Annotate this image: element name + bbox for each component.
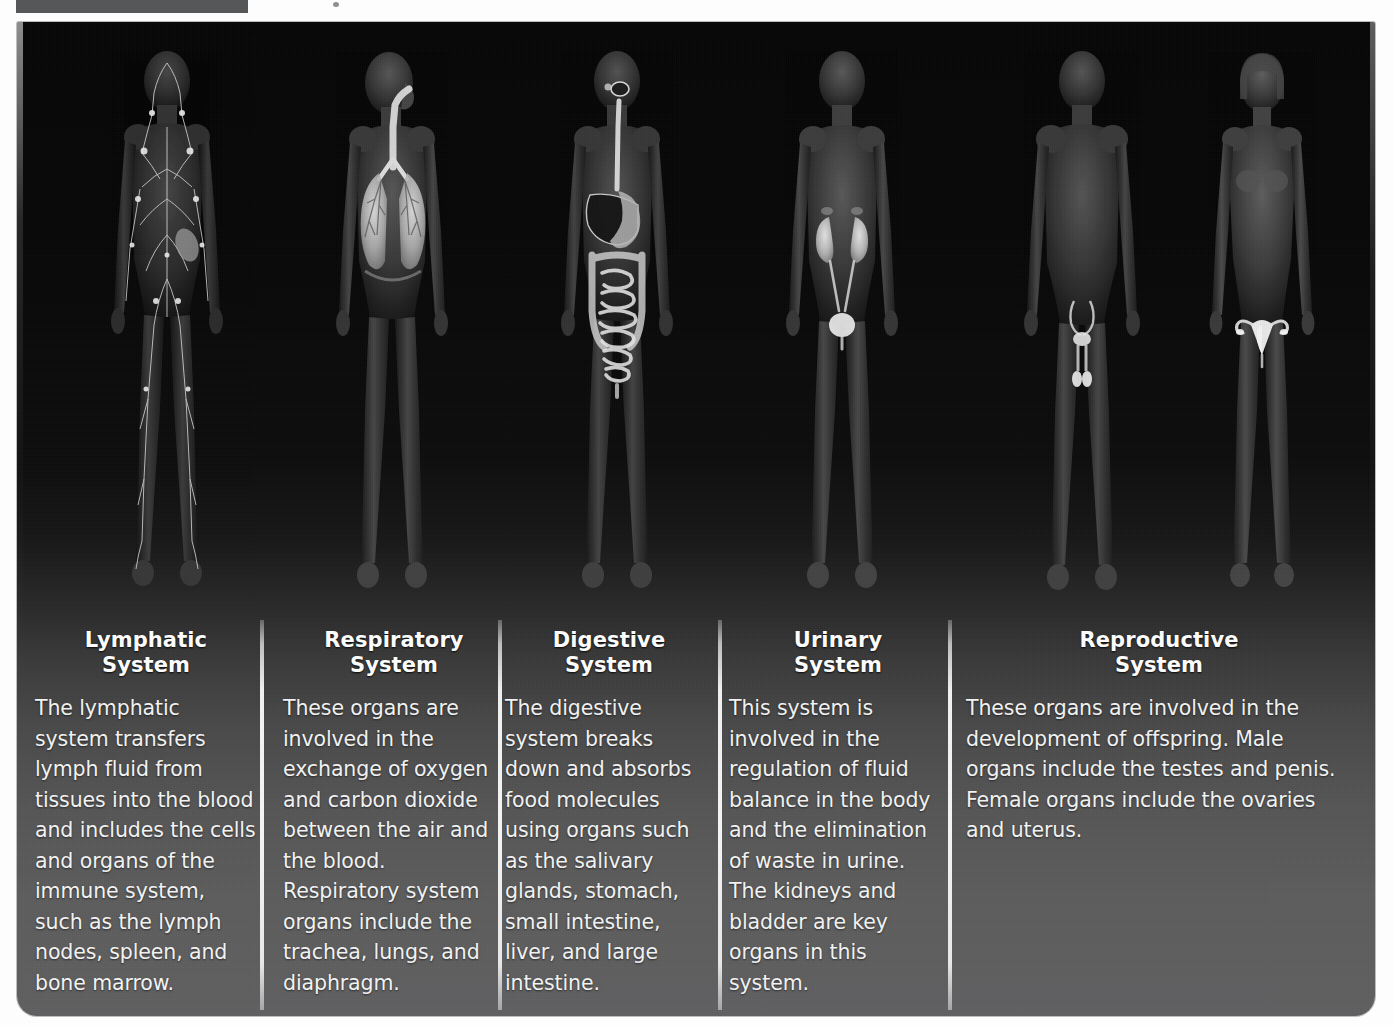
caption-title-urinary: Urinary System: [729, 602, 947, 678]
caption-title-digestive: Digestive System: [505, 602, 713, 678]
caption-title-line1: Reproductive: [1079, 628, 1238, 652]
page-root: Lymphatic System The lymphatic system tr…: [0, 0, 1393, 1025]
urinary-body-figure: [767, 49, 917, 609]
female-reproductive-body-figure: [1187, 49, 1337, 609]
respiratory-body-figure: [317, 49, 467, 609]
anatomy-figure-panel: Lymphatic System The lymphatic system tr…: [17, 22, 1375, 1016]
caption-title-line2: System: [565, 653, 653, 677]
body-figures-row: [17, 22, 1375, 617]
caption-column-respiratory: Respiratory System These organs are invo…: [283, 602, 505, 998]
caption-title-line2: System: [794, 653, 882, 677]
male-reproductive-body-figure: [1007, 49, 1157, 609]
caption-body-digestive: The digestive system breaks down and abs…: [505, 693, 713, 998]
caption-title-line1: Digestive: [553, 628, 665, 652]
caption-body-urinary: This system is involved in the regulatio…: [729, 693, 947, 998]
caption-column-lymphatic: Lymphatic System The lymphatic system tr…: [35, 602, 257, 998]
caption-column-reproductive: Reproductive System These organs are inv…: [962, 602, 1352, 846]
scan-artifact-speck: [333, 2, 339, 7]
scan-artifact-gray-bar: [16, 0, 248, 13]
caption-title-line2: System: [102, 653, 190, 677]
column-divider-1: [260, 620, 264, 1010]
caption-title-line1: Lymphatic: [85, 628, 207, 652]
caption-column-digestive: Digestive System The digestive system br…: [505, 602, 713, 998]
caption-title-lymphatic: Lymphatic System: [35, 602, 257, 678]
caption-title-line1: Urinary: [794, 628, 882, 652]
caption-title-line2: System: [350, 653, 438, 677]
caption-body-respiratory: These organs are involved in the exchang…: [283, 693, 505, 998]
caption-body-reproductive: These organs are involved in the develop…: [962, 693, 1352, 846]
column-divider-3: [718, 620, 722, 1010]
caption-body-lymphatic: The lymphatic system transfers lymph flu…: [35, 693, 257, 998]
digestive-body-figure: [542, 49, 692, 609]
caption-title-line2: System: [1115, 653, 1203, 677]
caption-title-line1: Respiratory: [324, 628, 463, 652]
caption-row: Lymphatic System The lymphatic system tr…: [17, 602, 1375, 1016]
caption-title-reproductive: Reproductive System: [962, 602, 1352, 678]
caption-title-respiratory: Respiratory System: [283, 602, 505, 678]
lymphatic-body-figure: [92, 49, 242, 609]
column-divider-4: [948, 620, 952, 1010]
caption-column-urinary: Urinary System This system is involved i…: [729, 602, 947, 998]
